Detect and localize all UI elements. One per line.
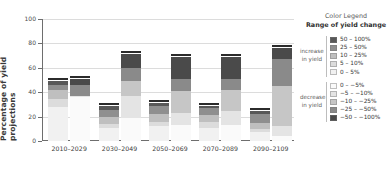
legend-title: Color Legend Range of yield change: [300, 12, 392, 31]
bar-segment: [272, 136, 292, 141]
legend-swatch: [330, 99, 337, 105]
y-tick-label: 100: [25, 16, 36, 22]
legend-item[interactable]: −25 – −50%: [330, 106, 392, 114]
legend-swatch: [330, 115, 337, 121]
legend-item[interactable]: −5 – −10%: [330, 90, 392, 98]
bar-total-cap: [149, 100, 169, 102]
y-tick-label: 60: [28, 65, 36, 71]
y-tick-label: 0: [32, 138, 36, 144]
bar-group: 2010–2029: [48, 19, 90, 141]
bar-segment: [48, 99, 68, 108]
legend-decrease-items: 0 – −5%−5 – −10%−10 – −25%−25 – −50%−50 …: [326, 82, 392, 123]
stacked-bar-decrease: [272, 48, 292, 141]
legend-side-line: decrease: [300, 94, 322, 102]
bar-total-cap: [272, 45, 292, 47]
bar-group: 2030–2049: [99, 19, 141, 141]
legend-item[interactable]: −50 – −100%: [330, 114, 392, 122]
legend-swatch: [330, 91, 337, 97]
bar-segment: [272, 48, 292, 59]
bar-total-cap: [171, 54, 191, 56]
bar-segment: [99, 110, 119, 117]
legend-item-label: −10 – −25%: [340, 99, 377, 105]
legend-item[interactable]: 0 – 5%: [330, 68, 392, 76]
bar-segment: [121, 68, 141, 81]
bar-segment: [70, 97, 90, 141]
legend-side-line: increase: [300, 48, 322, 56]
bar-segment: [221, 125, 241, 141]
legend-side-line: in yield: [300, 56, 322, 64]
bar-group: 2090–2109: [250, 19, 292, 141]
bar-segment: [272, 86, 292, 126]
legend-item-label: 0 – 5%: [340, 70, 359, 76]
legend-decrease-side-label: decreasein yield: [300, 94, 325, 109]
legend-swatch: [330, 45, 337, 51]
legend: Color Legend Range of yield change incre…: [300, 12, 392, 122]
bar-segment: [221, 111, 241, 126]
y-axis-line: [42, 19, 43, 141]
legend-item-label: 50 – 100%: [340, 37, 371, 43]
bar-segment: [221, 79, 241, 90]
plot-area: 020406080100 2010–20292030–20492050–2069…: [42, 19, 294, 141]
bar-segment: [199, 115, 219, 122]
bar-segment: [221, 57, 241, 79]
bar-total-cap: [121, 51, 141, 53]
bar-segment: [48, 107, 68, 141]
legend-title-line1: Color Legend: [300, 12, 392, 21]
bar-segment: [221, 90, 241, 111]
bar-segment: [199, 108, 219, 115]
bar-segment: [70, 85, 90, 96]
legend-item[interactable]: 10 – 25%: [330, 52, 392, 60]
y-tick: [38, 19, 42, 20]
y-tick-label: 80: [28, 40, 36, 46]
y-tick: [38, 117, 42, 118]
stacked-bar-decrease: [171, 57, 191, 141]
bar-segment: [250, 114, 270, 123]
bar-total-cap: [221, 54, 241, 56]
legend-swatch: [330, 53, 337, 59]
stacked-bar-decrease: [70, 79, 90, 141]
y-tick: [38, 43, 42, 44]
legend-item-label: −25 – −50%: [340, 107, 377, 113]
bar-segment: [149, 106, 169, 115]
bar-segment: [171, 79, 191, 91]
legend-item[interactable]: 50 – 100%: [330, 36, 392, 44]
legend-item-label: −5 – −10%: [340, 91, 373, 97]
bar-total-cap: [99, 103, 119, 105]
stacked-bar-decrease: [121, 54, 141, 141]
bar-group: 2070–2089: [199, 19, 241, 141]
legend-item[interactable]: 5 – 10%: [330, 60, 392, 68]
bar-segment: [250, 132, 270, 141]
stacked-bar-increase: [99, 106, 119, 141]
legend-title-line2: Range of yield change: [300, 21, 392, 30]
y-tick: [38, 92, 42, 93]
legend-swatch: [330, 37, 337, 43]
bar-segment: [48, 90, 68, 99]
legend-item-label: 25 – 50%: [340, 45, 367, 51]
bar-segment: [171, 91, 191, 113]
bar-segment: [121, 54, 141, 68]
legend-item-label: 10 – 25%: [340, 53, 367, 59]
legend-item-label: 0 – −5%: [340, 83, 364, 89]
bar-segment: [121, 118, 141, 141]
stacked-bar-decrease: [221, 57, 241, 141]
legend-increase-side-label: increasein yield: [300, 48, 325, 63]
bar-segment: [199, 128, 219, 141]
bar-segment: [99, 117, 119, 124]
bar-segment: [99, 128, 119, 141]
x-tick-label: 2050–2069: [141, 145, 199, 152]
bar-segment: [272, 59, 292, 86]
bar-segment: [171, 125, 191, 141]
legend-item[interactable]: 25 – 50%: [330, 44, 392, 52]
bar-segment: [121, 96, 141, 118]
y-tick: [38, 68, 42, 69]
bar-segment: [149, 114, 169, 121]
legend-swatch: [330, 83, 337, 89]
legend-item[interactable]: −10 – −25%: [330, 98, 392, 106]
legend-swatch: [330, 107, 337, 113]
legend-item-label: 5 – 10%: [340, 61, 363, 67]
legend-item-label: −50 – −100%: [340, 115, 380, 121]
bar-segment: [272, 126, 292, 136]
legend-decrease-block: decreasein yield 0 – −5%−5 – −10%−10 – −…: [300, 82, 392, 123]
y-axis-title: Percentage of yield projections: [2, 19, 14, 141]
legend-item[interactable]: 0 – −5%: [330, 82, 392, 90]
